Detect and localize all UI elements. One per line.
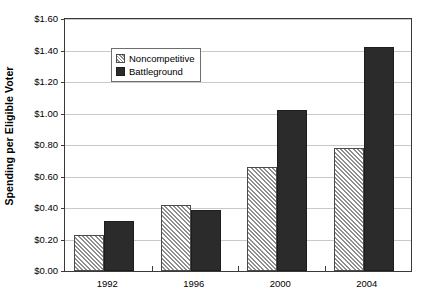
x-axis-tick-mark: [325, 266, 326, 271]
y-axis-tick-labels: $0.00$0.20$0.40$0.60$0.80$1.00$1.20$1.40…: [18, 0, 62, 308]
y-axis-tick-mark: [61, 208, 65, 209]
gridline: [65, 114, 411, 115]
x-axis-tick-mark: [238, 266, 239, 271]
legend-item-noncompetitive: Noncompetitive: [116, 52, 194, 65]
y-axis-title: Spending per Eligible Voter: [0, 0, 18, 272]
bar-battleground-2000: [277, 110, 307, 271]
y-axis-tick-label: $1.60: [34, 13, 58, 24]
chart-legend: Noncompetitive Battleground: [111, 48, 201, 82]
y-axis-tick-mark: [61, 114, 65, 115]
legend-label-noncompetitive: Noncompetitive: [129, 53, 194, 64]
bar-noncompetitive-1992: [74, 235, 104, 271]
y-axis-tick-mark: [61, 145, 65, 146]
y-axis-tick-mark: [61, 271, 65, 272]
y-axis-tick-label: $0.80: [34, 139, 58, 150]
y-axis-tick-label: $1.00: [34, 107, 58, 118]
y-axis-tick-mark: [61, 177, 65, 178]
y-axis-tick-label: $0.40: [34, 202, 58, 213]
y-axis-tick-label: $1.20: [34, 76, 58, 87]
y-axis-tick-mark: [61, 240, 65, 241]
y-axis-tick-label: $0.00: [34, 265, 58, 276]
gridline: [65, 19, 411, 20]
legend-label-battleground: Battleground: [129, 66, 183, 77]
x-axis-tick-label: 2004: [356, 278, 377, 289]
y-axis-tick-mark: [61, 51, 65, 52]
bar-battleground-2004: [364, 47, 394, 271]
gridline: [65, 82, 411, 83]
bar-noncompetitive-2000: [247, 167, 277, 271]
bar-battleground-1996: [191, 210, 221, 271]
legend-swatch-noncompetitive-icon: [116, 54, 125, 63]
bar-chart: Spending per Eligible Voter $0.00$0.20$0…: [0, 0, 427, 308]
bar-noncompetitive-2004: [334, 148, 364, 271]
bar-noncompetitive-1996: [161, 205, 191, 271]
legend-item-battleground: Battleground: [116, 65, 194, 78]
y-axis-tick-label: $1.40: [34, 44, 58, 55]
bar-battleground-1992: [104, 221, 134, 271]
y-axis-tick-mark: [61, 82, 65, 83]
y-axis-tick-label: $0.60: [34, 170, 58, 181]
y-axis-title-text: Spending per Eligible Voter: [3, 66, 15, 205]
x-axis-tick-labels: 1992199620002004: [64, 274, 412, 294]
x-axis-tick-label: 1996: [183, 278, 204, 289]
y-axis-tick-label: $0.20: [34, 233, 58, 244]
y-axis-tick-mark: [61, 19, 65, 20]
x-axis-tick-mark: [152, 266, 153, 271]
legend-swatch-battleground-icon: [116, 67, 125, 76]
x-axis-tick-label: 2000: [270, 278, 291, 289]
x-axis-tick-label: 1992: [97, 278, 118, 289]
gridline: [65, 145, 411, 146]
